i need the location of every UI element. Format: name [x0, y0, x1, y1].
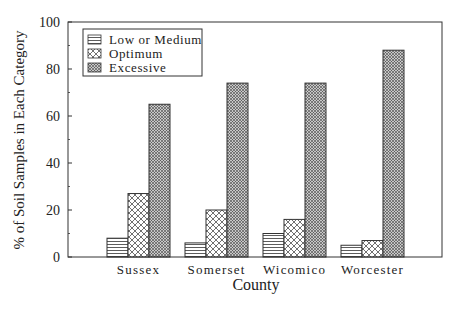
bar-low-or-medium: [263, 234, 284, 258]
x-tick-label: Sussex: [117, 262, 160, 277]
y-tick-label: 40: [46, 156, 60, 171]
legend-label: Optimum: [109, 46, 163, 61]
bar-low-or-medium: [341, 245, 362, 257]
y-tick-label: 0: [53, 250, 60, 265]
legend-swatch-icon: [88, 63, 101, 72]
legend: Low or MediumOptimumExcessive: [83, 29, 202, 76]
legend-label: Low or Medium: [109, 32, 202, 47]
bar-low-or-medium: [185, 243, 206, 257]
y-tick-label: 20: [46, 203, 60, 218]
bar-group-sussex: [107, 104, 170, 257]
bar-group-wicomico: [263, 83, 326, 257]
x-axis-label: County: [232, 276, 279, 294]
bar-excessive: [305, 83, 326, 257]
x-tick-label: Worcester: [341, 262, 404, 277]
bar-low-or-medium: [107, 238, 128, 257]
bar-optimum: [206, 210, 227, 257]
bar-optimum: [362, 241, 383, 257]
y-axis-label: % of Soil Samples in Each Category: [11, 30, 27, 250]
bar-chart: 020406080100SussexSomersetWicomicoWorces…: [0, 0, 460, 310]
x-tick-label: Wicomico: [263, 262, 326, 277]
bar-excessive: [149, 104, 170, 257]
legend-label: Excessive: [109, 60, 166, 75]
bar-optimum: [128, 194, 149, 257]
x-tick-label: Somerset: [188, 262, 246, 277]
bar-excessive: [227, 83, 248, 257]
bar-excessive: [383, 50, 404, 257]
bar-optimum: [284, 219, 305, 257]
bar-group-worcester: [341, 50, 404, 257]
legend-swatch-icon: [88, 49, 101, 58]
legend-swatch-icon: [88, 35, 101, 44]
plot-area: [107, 50, 404, 257]
y-tick-label: 60: [46, 109, 60, 124]
bar-group-somerset: [185, 83, 248, 257]
y-tick-label: 80: [46, 62, 60, 77]
y-tick-label: 100: [39, 15, 60, 30]
